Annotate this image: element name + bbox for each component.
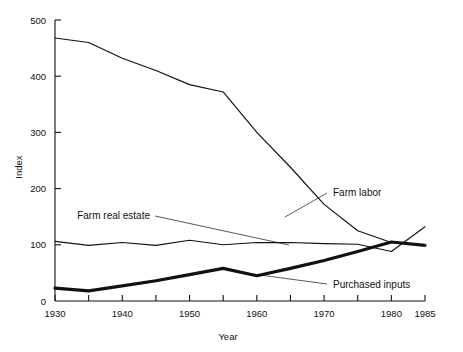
series-label-farm-labor: Farm labor: [333, 187, 382, 198]
x-axis-title: Year: [218, 331, 237, 342]
series-label-farm-real-estate: Farm real estate: [77, 210, 150, 221]
series-label-purchased-inputs: Purchased inputs: [333, 279, 410, 290]
chart-container: 0100200300400500 19301940195019601970198…: [0, 0, 463, 352]
x-tick-label-1960: 1960: [246, 308, 267, 319]
x-tick-label-1940: 1940: [112, 308, 133, 319]
x-tick-label-1980: 1980: [381, 308, 402, 319]
x-tick-label-1985: 1985: [414, 308, 435, 319]
x-tick-label-1970: 1970: [314, 308, 335, 319]
y-tick-label-100: 100: [30, 239, 46, 250]
y-tick-label-200: 200: [30, 183, 46, 194]
y-tick-label-500: 500: [30, 15, 46, 26]
y-axis-title: Index: [13, 155, 24, 178]
x-tick-label-1930: 1930: [44, 308, 65, 319]
y-tick-label-400: 400: [30, 71, 46, 82]
economic-index-line-chart: 0100200300400500 19301940195019601970198…: [0, 0, 463, 352]
chart-background: [0, 0, 463, 352]
y-tick-label-300: 300: [30, 127, 46, 138]
x-tick-label-1950: 1950: [179, 308, 200, 319]
y-tick-label-0: 0: [41, 296, 46, 307]
